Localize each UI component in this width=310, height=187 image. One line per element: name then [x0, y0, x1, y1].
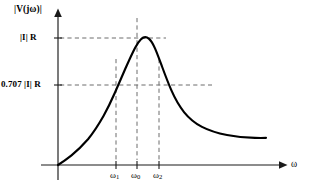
- y-tick-label-half-power-text: 0.707 |I| R: [1, 79, 41, 89]
- x-tick-label-omega0: ω0: [131, 171, 140, 181]
- x-axis-title: ω: [291, 160, 297, 169]
- x-tick-label-omega1-subscript: 1: [116, 173, 119, 180]
- plot-canvas: [0, 0, 310, 187]
- resonance-curve-figure: |V(jω)| |I| R 0.707 |I| R ω1 ω0 ω2 ω: [0, 0, 310, 187]
- y-tick-label-half-power: 0.707 |I| R: [1, 80, 41, 89]
- y-tick-label-peak: |I| R: [20, 33, 37, 42]
- y-axis-title-text: |V(jω)|: [14, 4, 42, 14]
- response-curve: [58, 37, 266, 165]
- x-axis-title-text: ω: [291, 159, 297, 169]
- x-tick-label-omega0-subscript: 0: [137, 173, 140, 180]
- x-tick-label-omega2-subscript: 2: [159, 173, 162, 180]
- y-axis-title: |V(jω)|: [14, 5, 42, 14]
- x-tick-label-omega2: ω2: [153, 171, 162, 181]
- x-tick-label-omega1: ω1: [110, 171, 119, 181]
- y-axis-arrow-icon: [54, 9, 62, 18]
- x-axis-arrow-icon: [279, 161, 288, 169]
- y-tick-label-peak-text: |I| R: [20, 32, 37, 42]
